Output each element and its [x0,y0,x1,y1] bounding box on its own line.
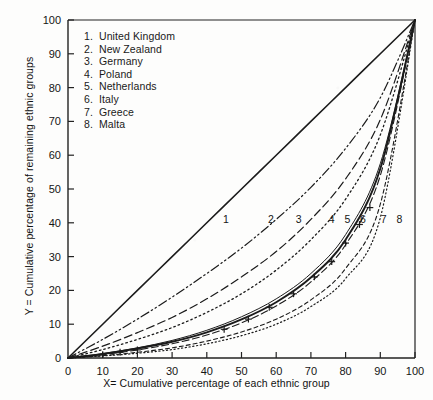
x-tick-label: 100 [406,365,424,377]
y-tick-label: 10 [49,318,61,330]
x-tick-label: 90 [374,365,386,377]
x-tick-label: 40 [201,365,213,377]
x-tick-label: 10 [97,365,109,377]
legend-item: 3.Germany [84,55,175,68]
plus-marker [99,351,106,358]
curve-tag-6: 6 [360,213,366,225]
legend-item: 8.Malta [84,118,175,131]
x-axis-label: X= Cumulative percentage of each ethnic … [0,377,433,389]
x-tick-label: 60 [270,365,282,377]
legend-item: 6.Italy [84,93,175,106]
legend-item-number: 3. [84,55,99,68]
y-tick-label: 30 [49,251,61,263]
y-tick-label: 80 [49,82,61,94]
curve-tag-2: 2 [268,213,274,225]
legend: 1.United Kingdom2.New Zealand3.Germany4.… [84,30,175,131]
legend-item-number: 8. [84,118,99,131]
legend-item: 1.United Kingdom [84,30,175,43]
x-tick-label: 50 [235,365,247,377]
y-tick-label: 70 [49,115,61,127]
legend-item-number: 7. [84,106,99,119]
lorenz-curve-plot: 0102030405060708090100 01020304050607080… [0,0,433,400]
y-tick-label: 20 [49,284,61,296]
x-tick-label: 0 [65,365,71,377]
x-tick-label: 20 [131,365,143,377]
y-tick-label: 40 [49,217,61,229]
legend-item-label: Malta [99,118,125,130]
legend-item: 5.Netherlands [84,80,175,93]
legend-item-number: 6. [84,93,99,106]
legend-item: 7.Greece [84,106,175,119]
y-tick-label: 50 [49,183,61,195]
legend-item-number: 2. [84,43,99,56]
x-tick-label: 80 [339,365,351,377]
y-axis-ticks: 0102030405060708090100 [43,14,74,364]
y-axis-label: Y = Cumulative percentage of remaining e… [23,21,35,351]
legend-item: 4.Poland [84,68,175,81]
legend-item-label: Greece [99,106,134,118]
legend-item-label: Germany [99,55,143,67]
legend-item-number: 4. [84,68,99,81]
legend-item-label: Italy [99,93,119,105]
italy-plus-markers [99,204,373,358]
x-tick-label: 30 [166,365,178,377]
curve-tag-5: 5 [344,213,350,225]
legend-item-label: Poland [99,68,132,80]
legend-item-number: 1. [84,30,99,43]
plus-marker [311,273,318,280]
curve-tag-3: 3 [296,213,302,225]
plus-marker [342,240,349,247]
curve-tag-7: 7 [381,213,387,225]
legend-item-label: United Kingdom [99,30,175,42]
curve-tag-8: 8 [396,213,402,225]
legend-item-label: New Zealand [99,43,162,55]
y-tick-label: 90 [49,48,61,60]
curve-tag-4: 4 [329,213,335,225]
y-tick-label: 0 [55,352,61,364]
x-tick-label: 70 [305,365,317,377]
legend-item-label: Netherlands [99,80,157,92]
y-tick-label: 100 [43,14,61,26]
legend-item-number: 5. [84,80,99,93]
y-tick-label: 60 [49,149,61,161]
curve-tag-1: 1 [223,213,229,225]
legend-item: 2.New Zealand [84,43,175,56]
x-axis-ticks: 0102030405060708090100 [65,352,424,377]
chart-screenshot: 0102030405060708090100 01020304050607080… [0,0,433,400]
